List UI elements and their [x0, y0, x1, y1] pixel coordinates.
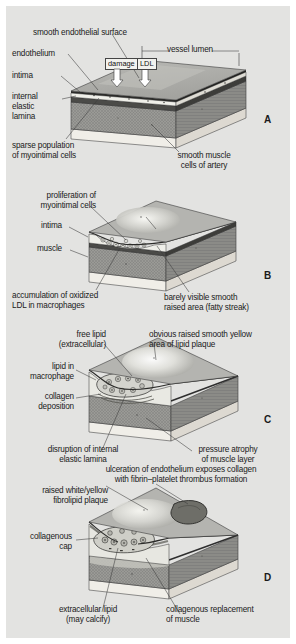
label-lipid-in-macrophage: lipid in macrophage: [10, 362, 74, 382]
label-ulceration-endothelium-thrombus: ulceration of endothelium exposes collag…: [72, 465, 290, 485]
callout-damage-arrow: [6, 6, 290, 174]
panel-letter-a: A: [264, 114, 271, 125]
label-muscle-b: muscle: [10, 244, 62, 254]
label-collagen-deposition: collagen deposition: [10, 392, 74, 412]
label-barely-visible-raised-area: barely visible smooth raised area (fatty…: [164, 293, 290, 313]
label-accumulation-oxidized-ldl: accumulation of oxidized LDL in macropha…: [12, 291, 132, 311]
panel-b-fatty-streak: proliferation of myointimal cells intima…: [6, 174, 290, 314]
label-extracellular-lipid: extracellular lipid (may calcify): [36, 605, 140, 625]
label-intima-b: intima: [10, 221, 62, 231]
atherosclerosis-figure: smooth endothelial surface endothelium i…: [6, 6, 290, 638]
panel-letter-b: B: [264, 270, 271, 281]
label-obvious-raised-lipid-plaque: obvious raised smooth yellow area of lip…: [149, 330, 289, 350]
panel-letter-d: D: [264, 572, 271, 583]
label-raised-fibrolipid-plaque: raised white/yellow fibrolipid plaque: [8, 486, 108, 506]
label-free-lipid-extracellular: free lipid (extracellular): [26, 330, 106, 350]
label-collagenous-cap: collagenous cap: [8, 532, 72, 552]
panel-c-lipid-plaque: free lipid (extracellular) lipid in macr…: [6, 314, 290, 462]
panel-a-normal-artery: smooth endothelial surface endothelium i…: [6, 6, 290, 174]
panel-letter-c: C: [264, 414, 271, 425]
label-proliferation-myointimal: proliferation of myointimal cells: [10, 191, 96, 211]
panel-d-complicated-plaque: ulceration of endothelium exposes collag…: [6, 462, 290, 638]
label-collagenous-replacement: collagenous replacement of muscle: [166, 605, 290, 625]
callout-ldl: LDL: [137, 58, 157, 70]
